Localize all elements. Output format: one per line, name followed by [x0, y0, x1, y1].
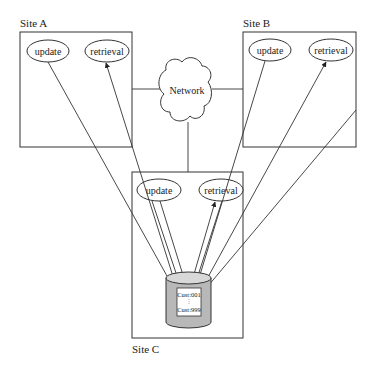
site-a-update-label: update	[35, 46, 62, 57]
site-b-label: Site B	[243, 17, 270, 29]
distributed-database-diagram: Site A update retrieval Site B update re…	[0, 0, 372, 367]
site-c-retrieval-label: retrieval	[204, 185, 238, 196]
db-record-first: Cust:001	[177, 291, 200, 298]
site-a-label: Site A	[20, 17, 47, 29]
db-record-last: Cust:999	[177, 306, 200, 313]
arrow-db-to-site-b-retrieval	[202, 62, 326, 288]
database-cylinder-icon: Cust:001 Cust:999	[166, 272, 211, 328]
site-c-label: Site C	[132, 343, 159, 355]
network-label: Network	[170, 85, 205, 96]
site-b-update-label: update	[257, 45, 284, 56]
arrow-site-a-update-to-db	[48, 62, 172, 285]
site-a-retrieval-label: retrieval	[90, 46, 124, 57]
site-c-update-label: update	[146, 185, 173, 196]
site-b-retrieval-label: retrieval	[314, 45, 348, 56]
